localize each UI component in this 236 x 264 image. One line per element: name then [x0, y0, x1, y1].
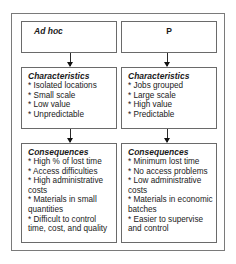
consequence-item: * Low administrative costs — [128, 176, 214, 195]
p-title-box: P — [121, 21, 217, 53]
characteristic-item: * Jobs grouped — [128, 81, 216, 91]
consequences-heading: Consequences — [28, 147, 116, 157]
characteristic-item: * Large scale — [128, 91, 216, 101]
consequence-item: * Materials in economic batches — [128, 195, 214, 214]
characteristic-item: * High value — [128, 100, 216, 110]
characteristic-item: * Small scale — [28, 91, 116, 101]
consequence-item: * Access difficulties — [28, 167, 116, 177]
consequences-heading: Consequences — [128, 147, 216, 157]
ad-hoc-title-box: Ad hoc — [21, 21, 117, 53]
consequence-item: * Difficult to control time, cost, and q… — [28, 215, 114, 234]
p-characteristics-box: Characteristics * Jobs grouped * Large s… — [121, 67, 217, 129]
p-title: P — [166, 26, 172, 36]
arrow-down-icon — [167, 129, 168, 142]
consequence-item: * Materials in small quantities — [28, 195, 114, 214]
ad-hoc-title: Ad hoc — [34, 26, 63, 36]
arrow-down-icon — [167, 53, 168, 66]
consequence-item: * High administrative costs — [28, 176, 114, 195]
arrow-down-icon — [70, 129, 71, 142]
ad-hoc-consequences-box: Consequences * High % of lost time * Acc… — [21, 143, 117, 243]
arrow-down-icon — [70, 53, 71, 66]
consequence-item: * No access problems — [128, 167, 216, 177]
consequence-item: * High % of lost time — [28, 157, 116, 167]
p-consequences-box: Consequences * Minimum lost time * No ac… — [121, 143, 217, 243]
characteristics-heading: Characteristics — [128, 71, 216, 81]
ad-hoc-characteristics-box: Characteristics * Isolated locations * S… — [21, 67, 117, 129]
characteristic-item: * Low value — [28, 100, 116, 110]
consequence-item: * Easier to supervise and control — [128, 215, 214, 234]
characteristic-item: * Predictable — [128, 110, 216, 120]
characteristic-item: * Unpredictable — [28, 110, 116, 120]
characteristic-item: * Isolated locations — [28, 81, 116, 91]
characteristics-heading: Characteristics — [28, 71, 116, 81]
consequence-item: * Minimum lost time — [128, 157, 216, 167]
